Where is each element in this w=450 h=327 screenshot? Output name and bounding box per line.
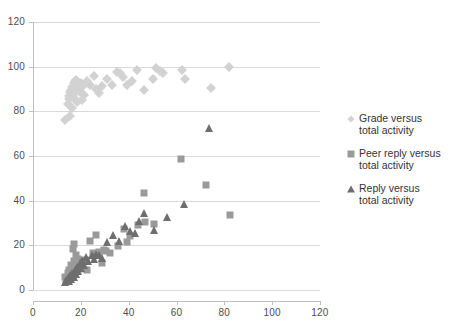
data-point-grade [127,76,137,86]
plot-area [33,22,320,290]
data-point-peer-reply [100,246,107,253]
data-point-grade [65,87,75,97]
gridline-y [33,156,320,157]
data-point-peer-reply [93,232,100,239]
data-point-grade [118,72,128,82]
data-point-peer-reply [150,221,157,228]
data-point-reply [115,237,123,245]
data-point-grade [66,85,76,95]
data-point-grade [72,97,82,107]
data-point-reply [72,270,80,278]
y-tick-label: 60 [0,150,25,161]
x-tick-label: 60 [157,307,197,318]
data-point-reply [126,227,134,235]
data-point-grade [148,74,158,84]
data-point-grade [64,91,74,101]
data-point-peer-reply [70,245,77,252]
data-point-reply [95,251,103,259]
square-marker-icon [344,147,357,160]
legend-label-reply: Reply versustotal activity [357,182,420,206]
data-point-peer-reply [95,249,102,256]
data-point-peer-reply [203,182,210,189]
x-tick-label: 120 [300,307,340,318]
data-point-peer-reply [73,252,80,259]
data-point-reply [140,209,148,217]
data-point-grade [180,74,190,84]
y-axis-tick [29,290,33,291]
data-point-reply [70,273,78,281]
x-tick-label: 40 [109,307,149,318]
data-point-peer-reply [70,257,77,264]
y-tick-label: 40 [0,195,25,206]
data-point-peer-reply [142,218,149,225]
gridline-y [33,111,320,112]
data-point-grade [75,87,85,97]
data-point-grade [89,71,99,81]
data-point-reply [98,254,106,262]
data-point-grade [76,78,86,88]
data-point-grade [123,80,133,90]
gridline-y [33,201,320,202]
data-point-grade [65,111,75,121]
data-point-grade [79,90,89,100]
data-point-reply [205,124,213,132]
data-point-grade [115,68,125,78]
gridline-y [33,290,320,291]
data-point-peer-reply [135,222,142,229]
data-point-grade [82,76,92,86]
data-point-grade [72,84,82,94]
y-axis-line [33,22,34,290]
x-axis-tick [272,301,273,305]
data-point-reply [88,251,96,259]
data-point-grade [102,74,112,84]
data-point-peer-reply [76,265,83,272]
data-point-peer-reply [69,269,76,276]
chart-legend: Grade versustotal activity Peer reply ve… [344,112,448,217]
data-point-peer-reply [141,189,148,196]
data-point-peer-reply [63,275,70,282]
data-point-reply [67,275,75,283]
data-point-grade [68,82,78,92]
x-tick-label: 100 [252,307,292,318]
data-point-grade [70,76,80,86]
data-point-reply [92,250,100,258]
data-point-peer-reply [227,212,234,219]
data-point-peer-reply [74,260,81,267]
legend-label-peer-reply: Peer reply versustotal activity [357,147,441,171]
data-point-peer-reply [68,262,75,269]
data-point-reply [61,278,69,286]
diamond-marker-icon [344,112,357,125]
data-point-peer-reply [102,247,109,254]
y-tick-label: 0 [0,284,25,295]
legend-item-grade[interactable]: Grade versustotal activity [344,112,448,136]
data-point-peer-reply [99,260,106,267]
y-tick-label: 120 [0,16,25,27]
x-axis-tick [33,301,34,305]
x-tick-label: 20 [61,307,101,318]
data-point-grade [66,92,76,102]
x-axis-tick [81,301,82,305]
data-point-grade [158,68,168,78]
data-point-grade [60,115,70,125]
data-point-peer-reply [82,256,89,263]
data-point-peer-reply [67,272,74,279]
data-point-grade [70,89,80,99]
data-point-reply [76,259,84,267]
data-point-reply [71,266,79,274]
data-point-grade [63,99,73,109]
data-point-peer-reply [114,243,121,250]
data-point-grade [91,84,101,94]
legend-item-reply[interactable]: Reply versustotal activity [344,182,448,206]
y-tick-label: 80 [0,105,25,116]
data-point-reply [77,264,85,272]
data-point-reply [66,271,74,279]
legend-label-grade: Grade versustotal activity [357,112,422,136]
data-point-grade [139,85,149,95]
data-point-grade [206,83,216,93]
legend-item-peer-reply[interactable]: Peer reply versustotal activity [344,147,448,171]
data-point-grade [71,75,81,85]
data-point-grade [94,89,104,99]
data-point-reply [109,231,117,239]
data-point-grade [85,80,95,90]
data-point-peer-reply [75,255,82,262]
